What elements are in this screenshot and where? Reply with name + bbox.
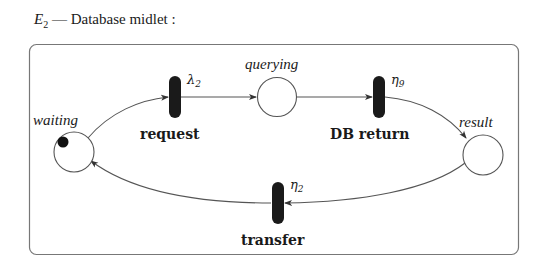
place-waiting[interactable] [54,132,94,172]
arc-transfer-to-waiting [91,161,271,203]
petri-net-diagram: waiting querying result λ2 request η9 DB… [0,0,546,267]
place-label-querying: querying [245,56,299,72]
rate-request: λ2 [186,72,201,89]
transition-request[interactable] [169,76,181,118]
place-label-result: result [459,114,493,130]
arc-result-to-transfer [285,163,465,203]
token [58,137,69,148]
place-querying[interactable] [258,78,297,117]
place-label-waiting: waiting [33,112,79,128]
place-result[interactable] [463,135,503,175]
rate-transfer: η2 [290,177,304,194]
rate-db-return: η9 [391,72,405,89]
transition-transfer[interactable] [272,182,284,224]
transition-db-return[interactable] [373,76,385,118]
transition-label-db-return: DB return [330,126,409,142]
transition-label-transfer: transfer [241,232,305,248]
transition-label-request: request [140,126,200,142]
diagram-frame [30,45,519,255]
